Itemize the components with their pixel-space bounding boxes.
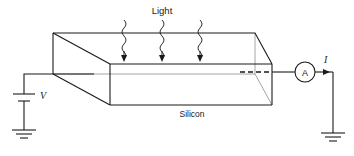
ammeter-icon[interactable]: A <box>295 62 315 82</box>
right-circuit: A I <box>272 54 345 141</box>
ground-icon <box>321 133 345 141</box>
ground-icon <box>12 130 36 138</box>
photoconductivity-diagram: V A I Light Silicon <box>0 0 354 156</box>
voltage-label: V <box>40 90 48 101</box>
current-label: I <box>323 54 328 65</box>
current-arrowhead <box>323 69 330 75</box>
ammeter-label: A <box>302 68 308 78</box>
battery-icon <box>13 94 35 101</box>
light-label: Light <box>152 5 173 16</box>
left-circuit: V <box>12 74 53 138</box>
battery-top-wire <box>24 74 53 94</box>
silicon-label: Silicon <box>179 109 204 119</box>
slab-front-face <box>110 64 272 105</box>
figure-root: V A I Light Silicon <box>0 0 354 156</box>
